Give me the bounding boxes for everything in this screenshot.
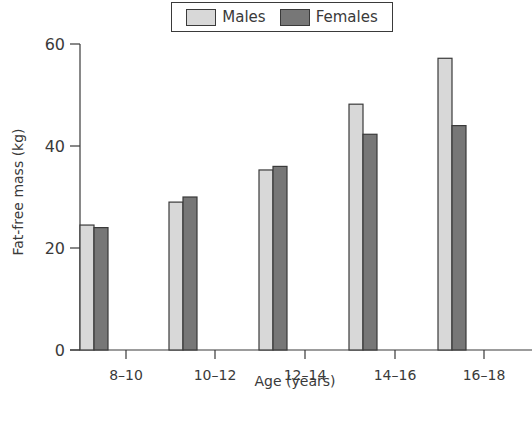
females-swatch: [280, 9, 310, 26]
bar-males: [259, 170, 273, 350]
bar-males: [80, 225, 94, 350]
bar-females: [363, 134, 377, 350]
bar-males: [349, 104, 363, 350]
y-tick-label: 0: [55, 341, 65, 360]
bar-males: [169, 202, 183, 350]
legend: Males Females: [171, 2, 393, 32]
legend-label-females: Females: [316, 8, 378, 26]
x-tick-label: 16–18: [463, 367, 506, 383]
x-tick-label: 8–10: [109, 367, 143, 383]
legend-item-males: Males: [186, 8, 265, 26]
legend-label-males: Males: [222, 8, 265, 26]
bar-females: [183, 197, 197, 350]
legend-item-females: Females: [280, 8, 378, 26]
bar-females: [273, 166, 287, 350]
y-tick-label: 60: [45, 35, 65, 54]
bar-chart: 02040608–1010–1212–1414–1616–18: [0, 0, 532, 430]
males-swatch: [186, 9, 216, 26]
bar-females: [94, 228, 108, 350]
bar-males: [438, 58, 452, 350]
y-tick-label: 20: [45, 239, 65, 258]
y-axis-label: Fat-free mass (kg): [10, 122, 26, 262]
y-tick-label: 40: [45, 137, 65, 156]
x-axis-label: Age (years): [230, 373, 360, 389]
x-tick-label: 14–16: [374, 367, 417, 383]
bar-females: [452, 126, 466, 350]
